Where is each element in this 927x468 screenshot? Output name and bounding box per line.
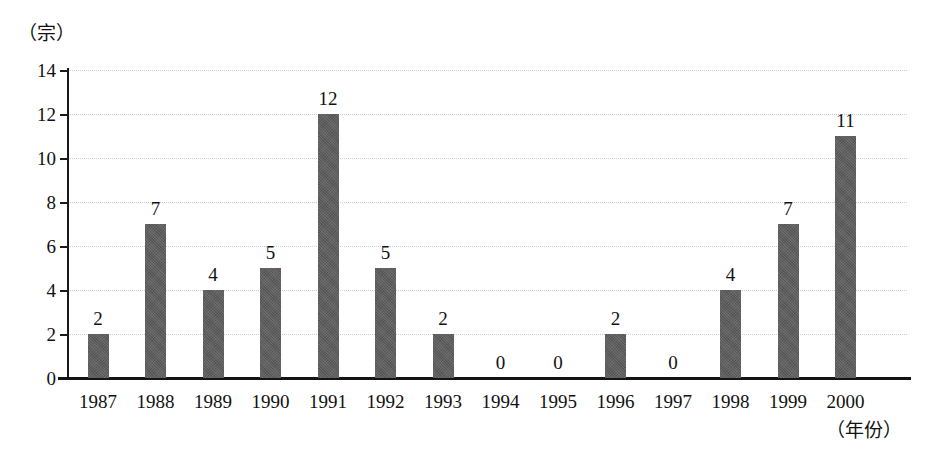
y-axis-tick-label: 4 — [16, 281, 56, 300]
x-axis-tick-label: 2000 — [816, 392, 876, 411]
bar — [835, 136, 856, 378]
x-axis-tick-label: 1989 — [183, 392, 243, 411]
bar — [433, 334, 454, 378]
bar-value-label: 4 — [708, 265, 754, 284]
y-axis-tick-label: 0 — [16, 369, 56, 388]
bar — [88, 334, 109, 378]
bar-value-label: 12 — [305, 89, 351, 108]
x-axis-tick-label: 1993 — [413, 392, 473, 411]
bar-value-label: 11 — [823, 111, 869, 130]
y-axis-tick-label: 12 — [16, 105, 56, 124]
bar — [605, 334, 626, 378]
bar-chart: （宗） 02468101214 2745125200204711 1987198… — [0, 0, 927, 468]
x-axis-unit-label: （年份） — [826, 421, 902, 440]
bar-value-label: 4 — [190, 265, 236, 284]
bar-value-label: 2 — [420, 309, 466, 328]
bar-value-label: 0 — [650, 353, 696, 372]
x-axis-tick-label: 1996 — [586, 392, 646, 411]
bar — [145, 224, 166, 378]
x-axis-tick-label: 1991 — [298, 392, 358, 411]
bars-group — [68, 70, 907, 378]
bar-value-label: 0 — [535, 353, 581, 372]
bar-value-label: 0 — [478, 353, 524, 372]
y-axis-tick-label-group: 02468101214 — [8, 0, 56, 468]
x-axis-tick-label: 1994 — [471, 392, 531, 411]
bar-value-label: 2 — [593, 309, 639, 328]
bar-value-label: 5 — [248, 243, 294, 262]
bar-value-label: 2 — [75, 309, 121, 328]
x-axis-tick-label: 1992 — [356, 392, 416, 411]
y-axis-tick-label: 8 — [16, 193, 56, 212]
x-axis-tick-label: 1995 — [528, 392, 588, 411]
x-axis-tick-label: 1987 — [68, 392, 128, 411]
x-axis-tick-label: 1999 — [758, 392, 818, 411]
bar-value-label: 7 — [765, 199, 811, 218]
bar — [203, 290, 224, 378]
x-axis-tick-label: 1998 — [701, 392, 761, 411]
bar — [375, 268, 396, 378]
x-axis-tick-label: 1997 — [643, 392, 703, 411]
bar — [778, 224, 799, 378]
bar — [260, 268, 281, 378]
x-axis-tick-label: 1988 — [126, 392, 186, 411]
y-axis-tick-label: 10 — [16, 149, 56, 168]
y-axis-tick-label: 6 — [16, 237, 56, 256]
x-axis-tick-label: 1990 — [241, 392, 301, 411]
bar-value-label: 7 — [133, 199, 179, 218]
bar-value-label: 5 — [363, 243, 409, 262]
bar — [318, 114, 339, 378]
bar — [720, 290, 741, 378]
y-axis-tick-label: 14 — [16, 61, 56, 80]
y-axis-tick-label: 2 — [16, 325, 56, 344]
